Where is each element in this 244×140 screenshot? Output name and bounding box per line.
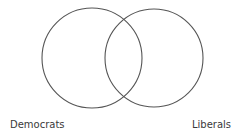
set-label-democrats: Democrats [10,120,65,130]
set-label-liberals: Liberals [192,120,231,130]
set-circle-liberals [105,9,203,107]
set-circle-democrats [42,8,142,108]
